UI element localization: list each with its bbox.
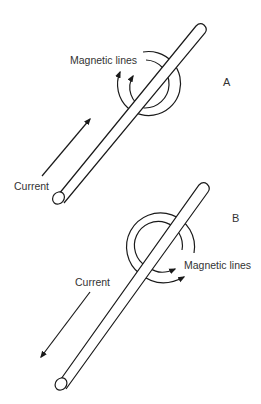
panel-label-a: A <box>223 77 230 88</box>
magnetic-lines-label-b: Magnetic lines <box>184 260 251 271</box>
current-label-a: Current <box>14 181 49 192</box>
magnetic-lines-label-a: Magnetic lines <box>70 55 137 66</box>
current-label-b: Current <box>75 277 110 288</box>
current-arrow-b <box>41 292 90 357</box>
panel-label-b: B <box>232 213 239 224</box>
panel-b <box>41 183 209 393</box>
diagram-canvas: Magnetic lines A Current B Magnetic line… <box>0 0 261 404</box>
wire-a <box>50 24 206 207</box>
panel-a <box>42 24 206 207</box>
